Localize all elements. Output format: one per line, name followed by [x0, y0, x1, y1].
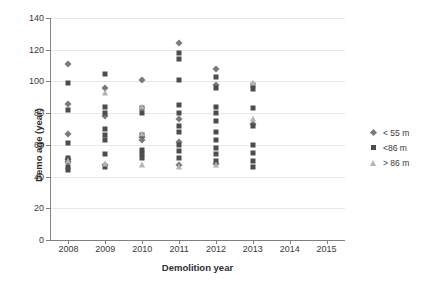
y-tick-mark: [46, 177, 50, 178]
data-point: [250, 165, 255, 170]
gridline: [50, 113, 345, 114]
data-point: [66, 141, 71, 146]
y-tick-label: 100: [29, 76, 44, 86]
legend-item[interactable]: > 86 m: [367, 155, 409, 170]
data-point: [250, 106, 255, 111]
data-point: [250, 158, 255, 163]
legend-item[interactable]: < 55 m: [367, 125, 409, 140]
x-axis-line: [50, 240, 345, 241]
data-point: [177, 103, 182, 108]
legend: < 55 m<86 m> 86 m: [367, 125, 409, 170]
data-point: [212, 65, 219, 72]
data-point: [139, 162, 145, 168]
gridline: [50, 81, 345, 82]
x-tick-label: 2012: [206, 244, 226, 254]
data-point: [213, 138, 218, 143]
x-tick-label: 2013: [243, 244, 263, 254]
x-tick-label: 2009: [95, 244, 115, 254]
y-tick-mark: [46, 81, 50, 82]
data-point: [66, 107, 71, 112]
triangle-marker-icon: [367, 160, 379, 166]
data-point: [66, 168, 71, 173]
y-tick-mark: [46, 18, 50, 19]
x-tick-label: 2015: [317, 244, 337, 254]
data-point: [176, 116, 183, 123]
square-marker-icon: [367, 145, 379, 150]
y-tick-label: 20: [34, 203, 44, 213]
data-point: [66, 81, 71, 86]
data-point: [213, 119, 218, 124]
data-point: [65, 157, 71, 163]
data-point: [103, 152, 108, 157]
data-point: [250, 142, 255, 147]
x-tick-label: 2008: [58, 244, 78, 254]
x-tick-label: 2011: [169, 244, 188, 254]
data-point: [250, 123, 255, 128]
gridline: [50, 177, 345, 178]
data-point: [213, 104, 218, 109]
data-point: [103, 104, 108, 109]
x-tick-label: 2014: [280, 244, 300, 254]
legend-item[interactable]: <86 m: [367, 140, 409, 155]
data-point: [177, 149, 182, 154]
legend-item-label: > 86 m: [383, 158, 409, 168]
data-point: [177, 111, 182, 116]
y-tick-mark: [46, 50, 50, 51]
data-point: [177, 123, 182, 128]
diamond-marker-icon: [367, 130, 379, 135]
gridline: [50, 18, 345, 19]
data-point: [250, 116, 256, 122]
data-point: [177, 142, 182, 147]
data-point: [250, 87, 255, 92]
x-axis-title: Demolition year: [50, 262, 345, 273]
data-point: [213, 74, 218, 79]
data-point: [65, 130, 72, 137]
y-tick-mark: [46, 208, 50, 209]
data-point: [176, 163, 182, 169]
data-point: [213, 111, 218, 116]
data-point: [213, 146, 218, 151]
data-point: [177, 130, 182, 135]
data-point: [250, 79, 256, 85]
data-point: [177, 57, 182, 62]
y-tick-mark: [46, 113, 50, 114]
gridline: [50, 145, 345, 146]
data-point: [102, 160, 108, 166]
legend-item-label: <86 m: [383, 143, 407, 153]
y-tick-mark: [46, 145, 50, 146]
data-point: [103, 138, 108, 143]
data-point: [102, 89, 108, 95]
y-tick-label: 120: [29, 45, 44, 55]
data-point: [213, 162, 219, 168]
legend-item-label: < 55 m: [383, 128, 409, 138]
data-point: [65, 60, 72, 67]
data-point: [177, 50, 182, 55]
scatter-chart: 020406080100120140 200820092010201120122…: [0, 0, 444, 289]
data-point: [176, 40, 183, 47]
data-point: [103, 127, 108, 132]
data-point: [140, 111, 145, 116]
data-point: [103, 71, 108, 76]
y-tick-mark: [46, 240, 50, 241]
data-point: [213, 152, 218, 157]
data-point: [250, 150, 255, 155]
data-point: [213, 130, 218, 135]
data-point: [139, 130, 145, 136]
data-point: [139, 103, 145, 109]
data-point: [65, 100, 72, 107]
data-point: [140, 155, 145, 160]
gridline: [50, 50, 345, 51]
data-point: [177, 155, 182, 160]
x-tick-label: 2010: [132, 244, 152, 254]
data-point: [213, 85, 218, 90]
y-axis-line: [50, 18, 51, 240]
plot-area: [50, 18, 345, 240]
data-point: [103, 111, 108, 116]
y-axis-title: Demo age (year): [33, 108, 44, 182]
gridline: [50, 208, 345, 209]
data-point: [177, 77, 182, 82]
y-tick-label: 140: [29, 13, 44, 23]
y-tick-label: 0: [39, 235, 44, 245]
